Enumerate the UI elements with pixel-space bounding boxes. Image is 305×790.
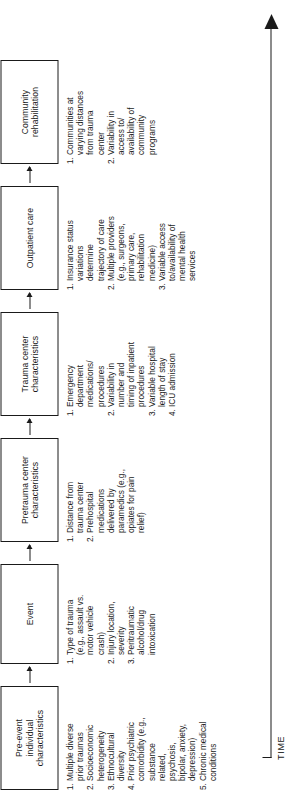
- list-item-text: Prior psychiatric comorbidity (e.g., sub…: [125, 686, 196, 781]
- arrow-event-to-pretrauma-center: [0, 542, 58, 564]
- list-item-text: Communities at varying distances from tr…: [64, 60, 105, 155]
- time-axis-label: TIME: [275, 736, 285, 760]
- arrow-head-icon: [26, 418, 32, 423]
- stage-list-pre-event: 1.Multiple diverse prior traumas 2.Socio…: [64, 686, 217, 790]
- stage-box-pre-event[interactable]: Pre-event individual characteristics: [0, 686, 58, 790]
- stage-title: Outpatient care: [24, 208, 34, 268]
- list-item: 1.Type of trauma (e.g., assault vs. moto…: [64, 564, 105, 664]
- stage-community-rehabilitation: Community rehabilitation 1.Communities a…: [0, 60, 156, 164]
- stage-outpatient-care: Outpatient care 1.Insurance status varia…: [0, 186, 197, 290]
- list-item: 2.Injury location, severity: [105, 564, 125, 664]
- list-item-number: 2.: [84, 781, 94, 790]
- list-item-text: Type of trauma (e.g., assault vs. motor …: [64, 564, 105, 655]
- list-item-text: Variability in access to/ availability o…: [105, 60, 156, 155]
- list-item: 1.Emergency department medications/ proc…: [64, 312, 105, 416]
- arrow-pretrauma-center-to-trauma-center: [0, 416, 58, 438]
- list-item: 2.Multiple providers (e.g., surgeons, pr…: [105, 186, 156, 290]
- list-item-number: 3.: [125, 655, 135, 664]
- list-item-number: 5.: [197, 781, 207, 790]
- stage-title: Pretrauma center characteristics: [19, 456, 40, 524]
- stage-title: Community rehabilitation: [19, 87, 40, 137]
- list-item: 3.Peritraumatic alcohol/drug intoxicatio…: [125, 564, 156, 664]
- stage-list-pretrauma-center: 1.Distance from trauma center 2.Prehospi…: [64, 438, 146, 542]
- list-item-text: Multiple diverse prior traumas: [64, 686, 84, 781]
- stage-list-event: 1.Type of trauma (e.g., assault vs. moto…: [64, 564, 156, 664]
- stage-box-trauma-center[interactable]: Trauma center characteristics: [0, 312, 58, 416]
- list-item-text: Socioeconomic heterogeneity: [84, 686, 104, 781]
- list-item-text: ICU admission: [166, 312, 176, 407]
- list-item-number: 2.: [105, 655, 115, 664]
- list-item-number: 3.: [105, 781, 115, 790]
- list-item-text: Distance from trauma center: [64, 438, 84, 533]
- list-item: 3.Variable access to/availability of men…: [156, 186, 197, 290]
- list-item: 4.ICU admission: [166, 312, 176, 416]
- list-item: 1.Distance from trauma center: [64, 438, 84, 542]
- list-item: 2.Variability in access to/ availability…: [105, 60, 156, 164]
- list-item-number: 4.: [125, 781, 135, 790]
- list-item: 2.Prehospital medications delivered by p…: [84, 438, 145, 542]
- list-item-number: 4.: [166, 407, 176, 416]
- arrow-trauma-center-to-outpatient-care: [0, 290, 58, 312]
- figure-rotator: Pre-event individual characteristics 1.M…: [0, 0, 305, 790]
- arrow-pre-event-to-event: [0, 664, 58, 686]
- list-item-number: 3.: [156, 281, 166, 290]
- list-item-number: 2.: [105, 155, 115, 164]
- list-item-text: Emergency department medications/ proced…: [64, 312, 105, 407]
- stage-box-pretrauma-center[interactable]: Pretrauma center characteristics: [0, 438, 58, 542]
- stage-pre-event: Pre-event individual characteristics 1.M…: [0, 686, 217, 790]
- stage-pretrauma-center: Pretrauma center characteristics 1.Dista…: [0, 438, 146, 542]
- list-item-number: 1.: [64, 781, 74, 790]
- stage-title: Event: [24, 603, 34, 625]
- stage-event: Event 1.Type of trauma (e.g., assault vs…: [0, 564, 156, 664]
- list-item: 3.Ethnocultural diversity: [105, 686, 125, 790]
- list-item-number: 2.: [84, 533, 94, 542]
- list-item-number: 3.: [146, 407, 156, 416]
- list-item-text: Variable hospital length of stay: [146, 312, 166, 407]
- list-item-number: 1.: [64, 155, 74, 164]
- list-item: 2.Socioeconomic heterogeneity: [84, 686, 104, 790]
- time-arrow-icon: [264, 14, 278, 29]
- time-axis-line: [270, 22, 271, 758]
- arrow-head-icon: [26, 166, 32, 171]
- arrow-head-icon: [26, 292, 32, 297]
- list-item-number: 1.: [64, 407, 74, 416]
- stage-box-community-rehabilitation[interactable]: Community rehabilitation: [0, 60, 58, 164]
- list-item-text: Variability in number and timing of inpa…: [105, 312, 146, 407]
- stage-title: Trauma center characteristics: [19, 336, 40, 393]
- list-item-text: Injury location, severity: [105, 564, 125, 655]
- list-item-number: 1.: [64, 281, 74, 290]
- list-item: 4.Prior psychiatric comorbidity (e.g., s…: [125, 686, 196, 790]
- arrow-outpatient-care-to-community-rehabilitation: [0, 164, 58, 186]
- arrow-head-icon: [26, 544, 32, 549]
- list-item: 1.Multiple diverse prior traumas: [64, 686, 84, 790]
- stage-box-event[interactable]: Event: [0, 564, 58, 664]
- list-item-text: Insurance status variations determine tr…: [64, 186, 105, 281]
- stage-list-outpatient-care: 1.Insurance status variations determine …: [64, 186, 197, 290]
- list-item: 5.Chronic medical conditions: [197, 686, 217, 790]
- arrow-head-icon: [26, 666, 32, 671]
- stage-trauma-center: Trauma center characteristics 1.Emergenc…: [0, 312, 176, 416]
- list-item-text: Prehospital medications delivered by par…: [84, 438, 145, 533]
- list-item: 1.Insurance status variations determine …: [64, 186, 105, 290]
- list-item: 3.Variable hospital length of stay: [146, 312, 166, 416]
- list-item-text: Peritraumatic alcohol/drug intoxication: [125, 564, 156, 655]
- list-item-text: Variable access to/availability of menta…: [156, 186, 197, 281]
- stage-list-community-rehabilitation: 1.Communities at varying distances from …: [64, 60, 156, 164]
- list-item-text: Chronic medical conditions: [197, 686, 217, 781]
- list-item-number: 1.: [64, 655, 74, 664]
- list-item-number: 1.: [64, 533, 74, 542]
- list-item-number: 2.: [105, 407, 115, 416]
- time-axis: TIME: [258, 8, 298, 782]
- list-item-number: 2.: [105, 281, 115, 290]
- list-item-text: Multiple providers (e.g., surgeons, prim…: [105, 186, 156, 281]
- stage-title: Pre-event individual characteristics: [13, 710, 44, 766]
- list-item: 1.Communities at varying distances from …: [64, 60, 105, 164]
- stage-list-trauma-center: 1.Emergency department medications/ proc…: [64, 312, 176, 416]
- stage-box-outpatient-care[interactable]: Outpatient care: [0, 186, 58, 290]
- list-item-text: Ethnocultural diversity: [105, 686, 125, 781]
- list-item: 2.Variability in number and timing of in…: [105, 312, 146, 416]
